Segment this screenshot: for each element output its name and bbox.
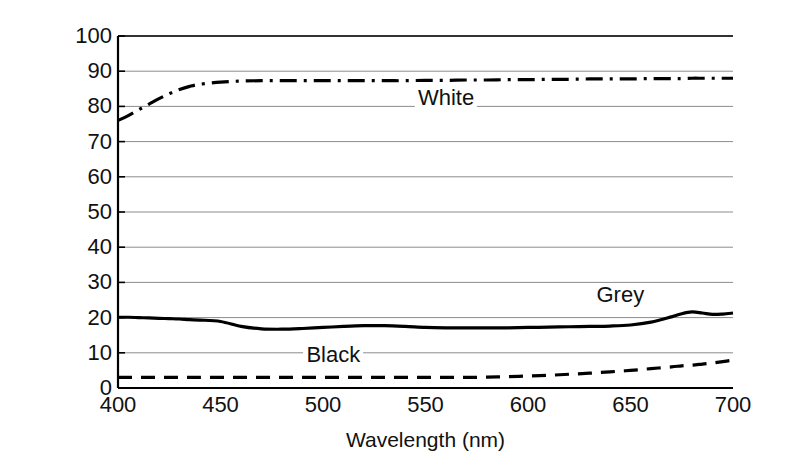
series-lines [118, 78, 733, 377]
x-tick-label: 550 [386, 392, 466, 418]
y-tick-label: 30 [46, 271, 112, 293]
series-label-black: Black [303, 344, 363, 366]
reflectance-chart: % Reflectance 0102030405060708090100 Whi… [0, 0, 785, 470]
y-tick-label: 10 [46, 342, 112, 364]
x-axis-title: Wavelength (nm) [118, 428, 733, 452]
series-label-white: White [415, 87, 477, 109]
x-tick-label: 400 [78, 392, 158, 418]
y-tick-label: 40 [46, 236, 112, 258]
series-line-grey [118, 312, 733, 329]
plot-area: WhiteGreyBlack [118, 36, 733, 388]
x-axis-tick-labels: 400450500550600650700 [0, 392, 785, 422]
y-tick-label: 80 [46, 95, 112, 117]
x-tick-label: 450 [181, 392, 261, 418]
y-tick-label: 70 [46, 131, 112, 153]
y-tick-label: 90 [46, 60, 112, 82]
y-tick-label: 60 [46, 166, 112, 188]
y-axis-tick-labels: 0102030405060708090100 [46, 36, 112, 388]
x-tick-label: 600 [488, 392, 568, 418]
x-tick-label: 700 [693, 392, 773, 418]
x-tick-label: 500 [283, 392, 363, 418]
series-label-grey: Grey [593, 284, 647, 306]
series-line-black [118, 360, 733, 377]
x-tick-label: 650 [591, 392, 671, 418]
y-tick-label: 20 [46, 307, 112, 329]
y-tick-label: 100 [46, 25, 112, 47]
y-tick-label: 50 [46, 201, 112, 223]
